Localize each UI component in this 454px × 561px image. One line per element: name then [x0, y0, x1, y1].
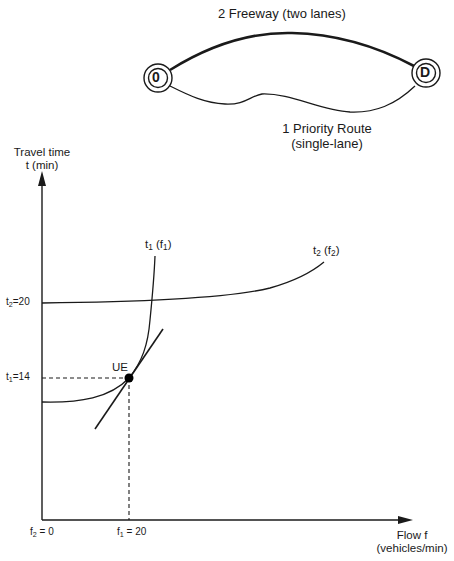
- priority-route-label-line1: 1 Priority Route: [262, 122, 392, 137]
- curve-t1-label: t1 (f1): [145, 238, 172, 253]
- x-tick-f1: f1 = 20: [117, 526, 146, 539]
- diagram-canvas: [0, 0, 454, 561]
- freeway-label: 2 Freeway (two lanes): [218, 7, 346, 22]
- y-axis-title-line1: Travel time: [4, 146, 80, 159]
- priority-route-label: 1 Priority Route (single-lane): [262, 122, 392, 152]
- priority-route-label-line2: (single-lane): [262, 137, 392, 152]
- x-axis-title-line2: (vehicles/min): [370, 542, 454, 555]
- x-tick-f2: f2 = 0: [30, 526, 54, 539]
- curve-t1: [42, 256, 155, 402]
- curve-t2-label: t2 (f2): [313, 244, 340, 259]
- y-axis-title-line2: t (min): [4, 159, 80, 172]
- freeway-route: [170, 33, 414, 70]
- y-axis-title: Travel time t (min): [4, 146, 80, 172]
- priority-route: [170, 86, 415, 112]
- destination-node-label: D: [420, 64, 430, 80]
- origin-node-label: 0: [152, 69, 160, 85]
- y-tick-t1: t1=14: [6, 371, 30, 384]
- ue-point: [125, 374, 134, 383]
- curve-t2: [42, 262, 324, 303]
- x-axis-arrow-icon: [398, 516, 413, 524]
- y-tick-t2: t2=20: [6, 296, 30, 309]
- x-axis-title: Flow f (vehicles/min): [370, 529, 454, 555]
- y-axis-arrow-icon: [38, 171, 46, 186]
- ue-label: UE: [112, 361, 128, 374]
- x-axis-title-line1: Flow f: [370, 529, 454, 542]
